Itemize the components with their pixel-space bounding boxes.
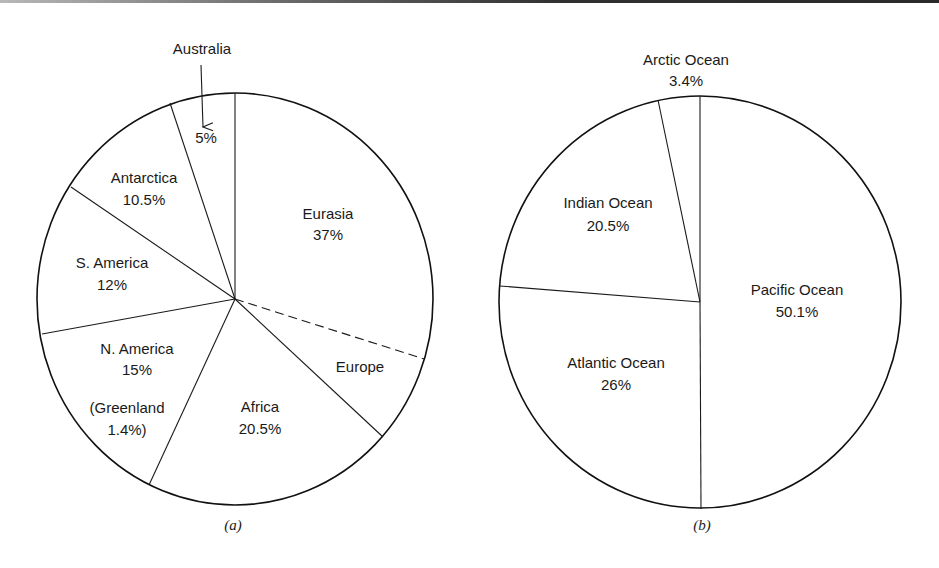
africa-value: 20.5% xyxy=(239,420,282,437)
australia-label: Australia xyxy=(173,40,232,57)
indian-ocean-value: 20.5% xyxy=(587,217,630,234)
pacific-ocean-value: 50.1% xyxy=(776,303,819,320)
figure-caption-b: (b) xyxy=(693,517,711,534)
greenland-label: (Greenland xyxy=(89,399,164,416)
pacific-ocean-label: Pacific Ocean xyxy=(751,281,844,298)
south-america-label: S. America xyxy=(76,254,149,271)
north-america-value: 15% xyxy=(122,361,152,378)
atlantic-ocean-label: Atlantic Ocean xyxy=(567,354,665,371)
africa-label: Africa xyxy=(241,398,280,415)
pie-chart-b: Pacific Ocean 50.1% Atlantic Ocean 26% I… xyxy=(499,51,901,534)
eurasia-label: Eurasia xyxy=(303,205,355,222)
eurasia-value: 37% xyxy=(313,226,343,243)
pie-charts-figure: Eurasia 37% Europe Africa 20.5% N. Ameri… xyxy=(0,0,939,568)
figure-caption-a: (a) xyxy=(224,517,242,534)
antarctica-value: 10.5% xyxy=(123,191,166,208)
australia-value: 5% xyxy=(195,129,217,146)
greenland-value: 1.4%) xyxy=(107,421,146,438)
indian-ocean-label: Indian Ocean xyxy=(563,194,652,211)
arctic-ocean-label: Arctic Ocean xyxy=(643,51,729,68)
arctic-ocean-value: 3.4% xyxy=(669,72,703,89)
north-america-label: N. America xyxy=(100,340,174,357)
antarctica-label: Antarctica xyxy=(111,169,178,186)
south-america-value: 12% xyxy=(97,276,127,293)
europe-label: Europe xyxy=(336,358,384,375)
atlantic-ocean-value: 26% xyxy=(601,376,631,393)
pie-chart-a: Eurasia 37% Europe Africa 20.5% N. Ameri… xyxy=(37,40,433,534)
